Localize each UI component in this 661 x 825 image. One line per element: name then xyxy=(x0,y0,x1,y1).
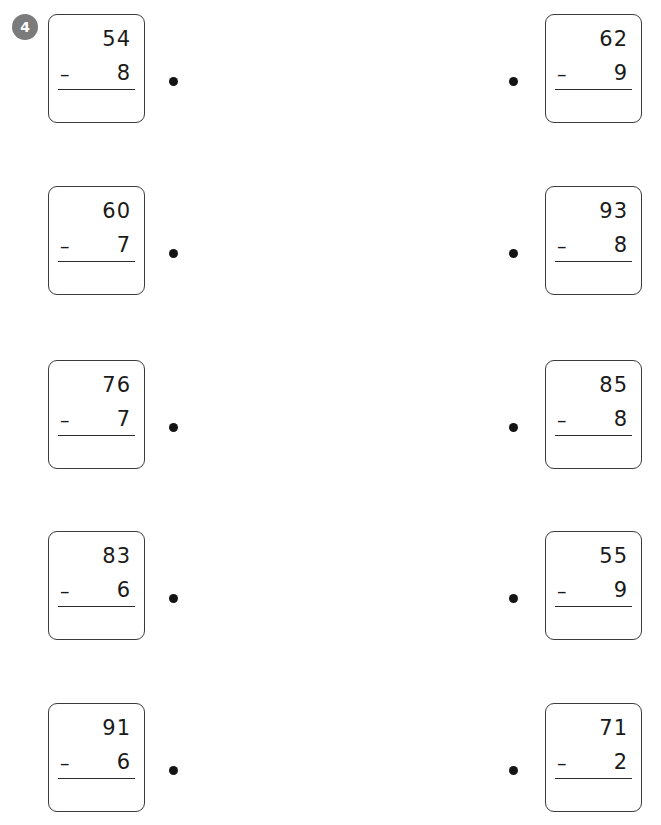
subtrahend-row: – 7 xyxy=(58,235,135,262)
matching-row: 91 – 6 71 – 2 xyxy=(0,703,661,815)
problem-card-right[interactable]: 55 – 9 xyxy=(545,531,642,640)
match-dot-right[interactable] xyxy=(509,249,518,258)
vertical-subtraction: 71 – 2 xyxy=(555,718,632,779)
minuend: 76 xyxy=(58,375,135,396)
worksheet-page: 4 54 – 8 62 – 9 xyxy=(0,0,661,825)
subtrahend-row: – 9 xyxy=(555,580,632,607)
problem-card-left[interactable]: 91 – 6 xyxy=(48,703,145,812)
problem-card-left[interactable]: 60 – 7 xyxy=(48,186,145,295)
vertical-subtraction: 93 – 8 xyxy=(555,201,632,262)
minuend: 93 xyxy=(555,201,632,222)
problem-card-right[interactable]: 71 – 2 xyxy=(545,703,642,812)
match-dot-right[interactable] xyxy=(509,766,518,775)
subtrahend: 9 xyxy=(614,580,628,601)
problem-card-right[interactable]: 62 – 9 xyxy=(545,14,642,123)
match-dot-left[interactable] xyxy=(169,249,178,258)
minuend: 62 xyxy=(555,29,632,50)
minus-operator-icon: – xyxy=(58,65,70,84)
match-dot-left[interactable] xyxy=(169,423,178,432)
vertical-subtraction: 62 – 9 xyxy=(555,29,632,90)
minus-operator-icon: – xyxy=(555,582,567,601)
subtrahend-row: – 7 xyxy=(58,409,135,436)
match-dot-left[interactable] xyxy=(169,766,178,775)
minus-operator-icon: – xyxy=(58,754,70,773)
matching-row: 54 – 8 62 – 9 xyxy=(0,14,661,126)
minus-operator-icon: – xyxy=(555,237,567,256)
matching-row: 76 – 7 85 – 8 xyxy=(0,360,661,472)
subtrahend: 7 xyxy=(117,409,131,430)
match-dot-left[interactable] xyxy=(169,77,178,86)
minus-operator-icon: – xyxy=(58,411,70,430)
subtrahend-row: – 8 xyxy=(58,63,135,90)
vertical-subtraction: 83 – 6 xyxy=(58,546,135,607)
minuend: 60 xyxy=(58,201,135,222)
vertical-subtraction: 91 – 6 xyxy=(58,718,135,779)
minuend: 55 xyxy=(555,546,632,567)
minuend: 71 xyxy=(555,718,632,739)
subtrahend-row: – 6 xyxy=(58,580,135,607)
minus-operator-icon: – xyxy=(555,411,567,430)
match-dot-right[interactable] xyxy=(509,77,518,86)
match-dot-right[interactable] xyxy=(509,423,518,432)
problem-card-right[interactable]: 93 – 8 xyxy=(545,186,642,295)
problem-card-left[interactable]: 54 – 8 xyxy=(48,14,145,123)
vertical-subtraction: 55 – 9 xyxy=(555,546,632,607)
minus-operator-icon: – xyxy=(58,582,70,601)
subtrahend: 7 xyxy=(117,235,131,256)
match-dot-left[interactable] xyxy=(169,594,178,603)
subtrahend-row: – 8 xyxy=(555,409,632,436)
subtrahend: 6 xyxy=(117,580,131,601)
minuend: 83 xyxy=(58,546,135,567)
vertical-subtraction: 76 – 7 xyxy=(58,375,135,436)
minuend: 91 xyxy=(58,718,135,739)
minuend: 54 xyxy=(58,29,135,50)
problem-card-right[interactable]: 85 – 8 xyxy=(545,360,642,469)
problem-card-left[interactable]: 76 – 7 xyxy=(48,360,145,469)
minus-operator-icon: – xyxy=(555,754,567,773)
problem-card-left[interactable]: 83 – 6 xyxy=(48,531,145,640)
subtrahend: 9 xyxy=(614,63,628,84)
matching-row: 83 – 6 55 – 9 xyxy=(0,531,661,643)
subtrahend-row: – 8 xyxy=(555,235,632,262)
minus-operator-icon: – xyxy=(58,237,70,256)
vertical-subtraction: 54 – 8 xyxy=(58,29,135,90)
subtrahend: 8 xyxy=(614,409,628,430)
matching-row: 60 – 7 93 – 8 xyxy=(0,186,661,298)
subtrahend-row: – 9 xyxy=(555,63,632,90)
subtrahend-row: – 6 xyxy=(58,752,135,779)
subtrahend: 8 xyxy=(614,235,628,256)
subtrahend: 6 xyxy=(117,752,131,773)
vertical-subtraction: 60 – 7 xyxy=(58,201,135,262)
minus-operator-icon: – xyxy=(555,65,567,84)
subtrahend: 2 xyxy=(614,752,628,773)
minuend: 85 xyxy=(555,375,632,396)
vertical-subtraction: 85 – 8 xyxy=(555,375,632,436)
subtrahend: 8 xyxy=(117,63,131,84)
match-dot-right[interactable] xyxy=(509,594,518,603)
subtrahend-row: – 2 xyxy=(555,752,632,779)
